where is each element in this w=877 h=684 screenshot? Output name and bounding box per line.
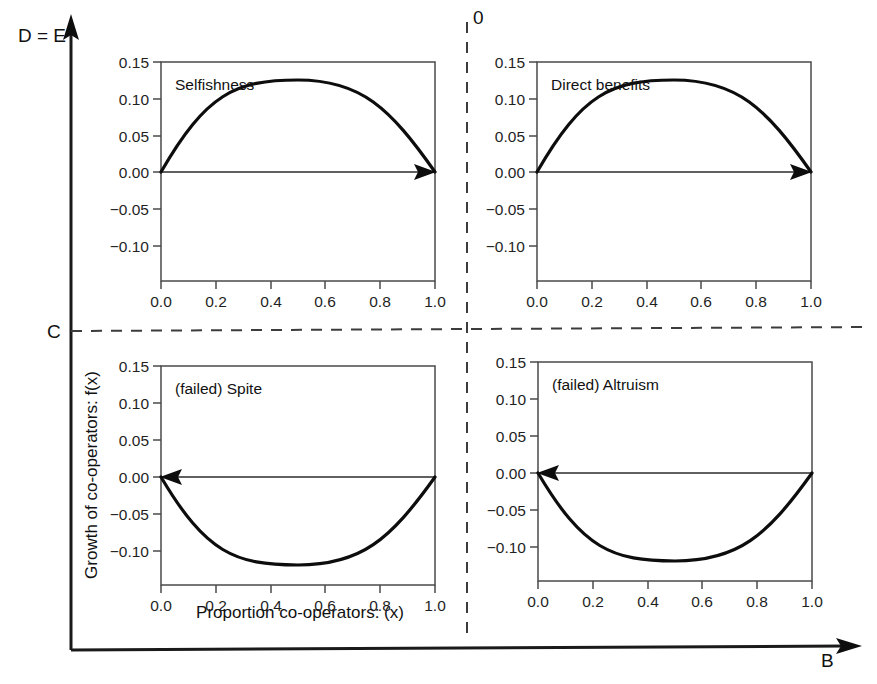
panel-top-left-y-ticks xyxy=(153,62,161,246)
panel-title-bottom-right: (failed) Altruism xyxy=(552,376,659,393)
ytick-label: 0.00 xyxy=(119,164,150,181)
xtick-label: 0.2 xyxy=(205,293,227,310)
panel-frame-bottom-left xyxy=(161,366,435,585)
ytick-label: 0.15 xyxy=(119,54,149,71)
panel-bottom-left-x-ticks xyxy=(161,585,435,593)
xtick-label: 0.6 xyxy=(690,293,712,310)
main-axes xyxy=(63,14,862,654)
xtick-label: 0.8 xyxy=(369,293,391,310)
ytick-label: 0.05 xyxy=(495,128,525,145)
ytick-label: 0.10 xyxy=(495,91,526,108)
curve-failed-altruism xyxy=(538,473,812,561)
ytick-label: 0.00 xyxy=(496,465,527,482)
xtick-label: 0.2 xyxy=(582,593,604,610)
panel-top-left: 0.15 0.10 0.05 0.00 −0.05 −0.10 0.0 0.2 … xyxy=(110,54,446,310)
xtick-label: 0.2 xyxy=(205,597,227,614)
ytick-label: 0.10 xyxy=(119,91,150,108)
ytick-label: −0.05 xyxy=(110,506,149,523)
axis-label-d-equals-e: D = E xyxy=(18,25,66,46)
ytick-label: 0.10 xyxy=(119,395,150,412)
panel-bottom-right-x-ticks xyxy=(538,581,812,589)
xtick-label: 1.0 xyxy=(424,597,446,614)
panel-title-bottom-left: (failed) Spite xyxy=(175,380,262,397)
xtick-label: 0.0 xyxy=(526,293,548,310)
curve-direct-benefits xyxy=(537,80,811,172)
panel-bottom-right-y-ticks xyxy=(530,362,538,547)
xtick-label: 0.6 xyxy=(314,293,336,310)
ytick-label: 0.15 xyxy=(495,54,525,71)
xtick-label: 0.8 xyxy=(745,293,767,310)
xtick-label: 0.4 xyxy=(637,593,659,610)
panel-top-right-x-ticks xyxy=(537,281,811,289)
xtick-label: 0.6 xyxy=(691,593,713,610)
panel-top-right: 0.15 0.10 0.05 0.00 −0.05 −0.10 0.0 0.2 … xyxy=(486,54,822,310)
ytick-label: −0.10 xyxy=(487,539,527,556)
xtick-label: 0.8 xyxy=(746,593,768,610)
xtick-label: 1.0 xyxy=(801,593,823,610)
quadrant-dividers xyxy=(71,22,870,638)
xtick-label: 0.0 xyxy=(150,597,172,614)
axis-label-c: C xyxy=(47,321,61,342)
xtick-label: 0.4 xyxy=(260,293,282,310)
ytick-label: 0.10 xyxy=(496,391,527,408)
xtick-label: 1.0 xyxy=(424,293,446,310)
curve-selfishness xyxy=(161,80,435,172)
ytick-label: 0.05 xyxy=(119,128,149,145)
horizontal-main-axis xyxy=(71,646,845,650)
ytick-label: −0.05 xyxy=(486,201,525,218)
ytick-label: 0.00 xyxy=(119,469,150,486)
shared-y-axis-title: Growth of co-operators: f(x) xyxy=(82,371,101,579)
xtick-label: 0.0 xyxy=(527,593,549,610)
axis-label-b: B xyxy=(821,650,834,671)
horizontal-divider-dashed xyxy=(71,327,870,331)
evolutionary-dynamics-quadrant-figure: D = E 0 C B Proportion co-operators: (x)… xyxy=(0,0,877,684)
xtick-label: 0.2 xyxy=(581,293,603,310)
panel-bottom-right: 0.15 0.10 0.05 0.00 −0.05 −0.10 0.0 0.2 … xyxy=(487,354,823,610)
ytick-label: 0.05 xyxy=(496,428,526,445)
ytick-label: −0.10 xyxy=(110,543,150,560)
xtick-label: 0.4 xyxy=(260,597,282,614)
xtick-label: 0.4 xyxy=(636,293,658,310)
panel-frame-bottom-right xyxy=(538,362,812,581)
ytick-label: 0.15 xyxy=(119,358,149,375)
ytick-label: −0.05 xyxy=(110,201,149,218)
figure-canvas: D = E 0 C B Proportion co-operators: (x)… xyxy=(0,0,877,684)
panel-title-top-left: Selfishness xyxy=(175,76,255,93)
panel-top-left-x-ticks xyxy=(161,281,435,289)
ytick-label: 0.05 xyxy=(119,432,149,449)
panel-top-right-y-ticks xyxy=(529,62,537,246)
xtick-label: 1.0 xyxy=(800,293,822,310)
xtick-label: 0.6 xyxy=(314,597,336,614)
panel-title-top-right: Direct benefits xyxy=(551,76,650,93)
xtick-label: 0.8 xyxy=(369,597,391,614)
panel-bottom-left: 0.15 0.10 0.05 0.00 −0.05 −0.10 0.0 0.2 … xyxy=(110,358,446,614)
ytick-label: 0.00 xyxy=(495,164,526,181)
panel-bottom-left-y-ticks xyxy=(153,366,161,551)
curve-failed-spite xyxy=(161,477,435,565)
ytick-label: 0.15 xyxy=(496,354,526,371)
ytick-label: −0.10 xyxy=(486,238,526,255)
ytick-label: −0.05 xyxy=(487,502,526,519)
xtick-label: 0.0 xyxy=(150,293,172,310)
axis-label-origin-zero: 0 xyxy=(473,7,484,28)
ytick-label: −0.10 xyxy=(110,238,150,255)
